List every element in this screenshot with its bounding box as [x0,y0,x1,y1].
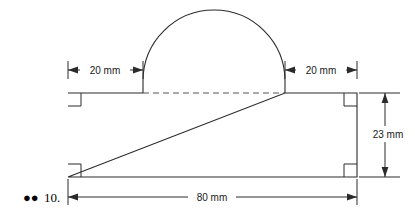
arrowhead-right-end-icon [347,67,357,74]
diagram-canvas: 20 mm 20 mm 23 mm [0,0,415,216]
item-number-label: 10. [44,190,60,205]
arrowhead-width-right-icon [347,194,357,201]
corner-marker-bottom-right-icon [344,164,357,177]
dimension-height: 23 mm [359,93,410,177]
corner-marker-top-right-icon [344,93,357,106]
rectangle-outline [68,93,357,177]
dimension-width-label: 80 mm [197,192,228,203]
arrowhead-height-bottom-icon [382,167,389,177]
dimension-left-label: 20 mm [90,65,121,76]
dimension-height-label: 23 mm [373,129,404,140]
arrowhead-width-left-icon [68,194,78,201]
dimension-width: 80 mm [68,179,357,205]
figure-container: 20 mm 20 mm 23 mm [0,0,415,216]
arrowhead-height-top-icon [382,93,389,103]
dimension-right-offset: 20 mm [285,61,357,79]
dimension-right-label: 20 mm [306,65,337,76]
dimension-left-offset: 20 mm [68,61,143,79]
arrowhead-left-start-icon [68,67,78,74]
difficulty-bullets-icon: ●● [23,190,39,205]
arrowhead-right-start-icon [285,67,295,74]
semicircle-arc [143,10,285,93]
arrowhead-left-end-icon [133,67,143,74]
corner-marker-top-left-icon [68,93,81,106]
